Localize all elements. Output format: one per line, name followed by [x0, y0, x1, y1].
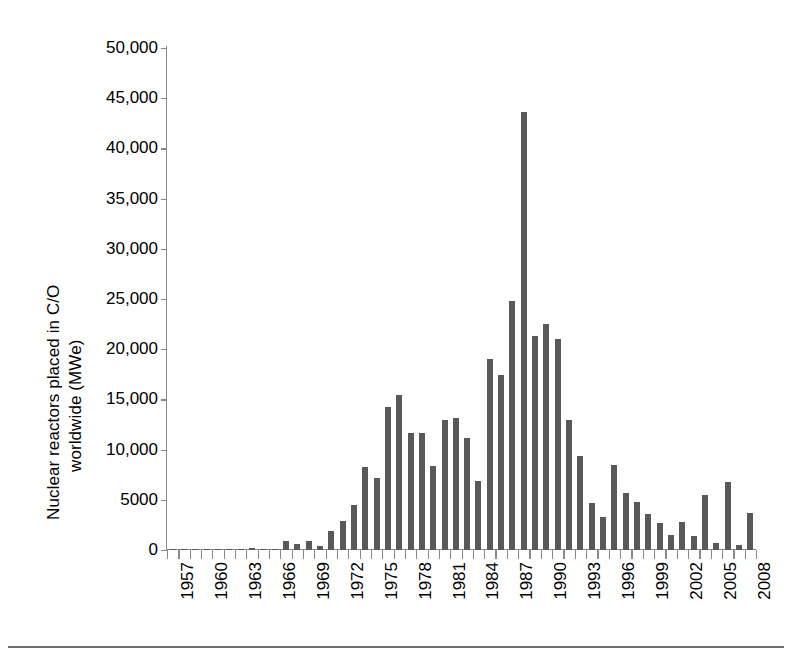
bar [204, 549, 210, 550]
bar [736, 545, 742, 550]
x-axis-tick-mark [405, 550, 406, 559]
bar [249, 548, 255, 550]
bar [453, 418, 459, 550]
x-axis-tick-labels: 1957196019631966196919721975197819811984… [167, 562, 756, 642]
x-axis-tick-mark [326, 550, 327, 559]
bar [294, 544, 300, 550]
y-axis-tick-mark [161, 199, 167, 200]
x-axis-tick-mark [484, 550, 485, 559]
x-axis-tick-label: 1966 [281, 562, 298, 600]
x-axis-tick-mark [462, 550, 463, 559]
plot-area [167, 48, 756, 550]
x-axis-tick-label: 2005 [722, 562, 739, 600]
bar [691, 536, 697, 550]
bar [317, 546, 323, 550]
x-axis-tick-mark [563, 550, 564, 559]
bar [306, 541, 312, 550]
bar [215, 549, 221, 550]
bar [566, 420, 572, 550]
x-axis-tick-mark [292, 550, 293, 559]
x-axis-tick-mark [337, 550, 338, 559]
bar [442, 420, 448, 550]
x-axis-tick-mark [394, 550, 395, 559]
bar [340, 521, 346, 550]
bar [747, 513, 753, 550]
x-axis-tick-mark [495, 550, 496, 559]
x-axis-tick-mark [314, 550, 315, 559]
x-axis-tick-mark [348, 550, 349, 559]
y-axis-tick-labels: 0500010,00015,00020,00025,00030,00035,00… [72, 0, 158, 658]
bar [623, 493, 629, 550]
y-axis-tick-label: 50,000 [72, 39, 158, 56]
y-axis-tick-label: 10,000 [72, 441, 158, 458]
y-axis-tick-label: 20,000 [72, 340, 158, 357]
bar [543, 324, 549, 550]
bar [170, 549, 176, 551]
x-axis-tick-mark [212, 550, 213, 559]
x-axis-tick-label: 1975 [383, 562, 400, 600]
x-axis-tick-mark [518, 550, 519, 559]
x-axis-tick-mark [677, 550, 678, 559]
bar [657, 523, 663, 550]
x-axis-tick-mark [201, 550, 202, 559]
bar [260, 549, 266, 550]
x-axis-tick-mark [575, 550, 576, 559]
y-axis-tick-mark [161, 399, 167, 400]
bar [475, 481, 481, 550]
x-axis-tick-mark [303, 550, 304, 559]
x-axis-tick-label: 1996 [620, 562, 637, 600]
x-axis-tick-mark [699, 550, 700, 559]
y-axis-tick-label: 40,000 [72, 139, 158, 156]
y-axis-title-line-1: Nuclear reactors placed in C/O [44, 285, 64, 520]
x-axis-tick-label: 1993 [586, 562, 603, 600]
x-axis-tick-mark [552, 550, 553, 559]
bar [419, 433, 425, 550]
bar [408, 433, 414, 550]
bar [385, 407, 391, 550]
bar [725, 482, 731, 550]
x-axis-tick-label: 1969 [315, 562, 332, 600]
y-axis-tick-mark [161, 48, 167, 49]
x-axis-tick-mark [597, 550, 598, 559]
x-axis-tick-mark [541, 550, 542, 559]
x-axis-tick-mark [473, 550, 474, 559]
x-axis-tick-mark [507, 550, 508, 559]
bar [283, 541, 289, 550]
bar [226, 549, 232, 550]
y-axis-title: Nuclear reactors placed in C/O worldwide… [0, 0, 70, 600]
y-axis-tick-label: 35,000 [72, 190, 158, 207]
x-axis-tick-mark [450, 550, 451, 559]
bar [521, 112, 527, 550]
x-axis-tick-mark [167, 550, 168, 559]
bar [668, 535, 674, 550]
x-axis-tick-label: 1990 [552, 562, 569, 600]
bar [555, 339, 561, 550]
x-axis-tick-label: 1981 [451, 562, 468, 600]
bar [192, 549, 198, 550]
x-axis-tick-mark [269, 550, 270, 559]
bar [645, 514, 651, 550]
y-axis-tick-mark [161, 450, 167, 451]
bar [487, 359, 493, 550]
y-axis-tick-label: 25,000 [72, 290, 158, 307]
x-axis-tick-mark [439, 550, 440, 559]
x-axis-tick-mark [631, 550, 632, 559]
x-axis-tick-label: 1984 [484, 562, 501, 600]
bar [498, 375, 504, 550]
x-axis-tick-mark [190, 550, 191, 559]
x-axis-tick-mark [586, 550, 587, 559]
y-axis-tick-label: 0 [72, 541, 158, 558]
bar [181, 549, 187, 550]
x-axis-tick-mark [643, 550, 644, 559]
x-axis-tick-mark [745, 550, 746, 559]
x-axis-tick-mark [609, 550, 610, 559]
x-axis-tick-mark [722, 550, 723, 559]
x-axis-tick-mark [280, 550, 281, 559]
x-axis-tick-mark [428, 550, 429, 559]
x-axis-tick-mark [620, 550, 621, 559]
x-axis-tick-mark [665, 550, 666, 559]
bar [396, 395, 402, 550]
bar [464, 438, 470, 550]
x-axis-tick-label: 1963 [247, 562, 264, 600]
x-axis-tick-label: 1957 [179, 562, 196, 600]
